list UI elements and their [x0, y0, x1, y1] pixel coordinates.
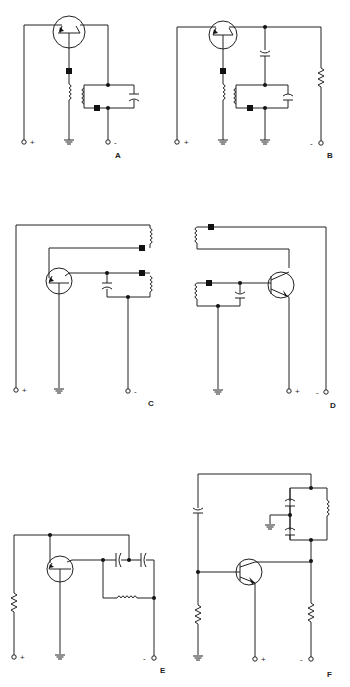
- svg-text:A: A: [115, 151, 121, 160]
- svg-text:+: +: [184, 138, 189, 147]
- inductor-icon: [223, 74, 225, 140]
- svg-text:+: +: [261, 655, 266, 664]
- capacitor-icon: [193, 508, 203, 510]
- svg-text:-: -: [114, 138, 117, 147]
- svg-text:+: +: [22, 386, 27, 395]
- svg-text:-: -: [310, 139, 313, 148]
- resistor-icon: [308, 561, 314, 657]
- svg-text:D: D: [330, 401, 336, 410]
- circuit-e: + - E: [11, 533, 166, 675]
- svg-text:C: C: [148, 399, 154, 408]
- capacitor-icon: [102, 287, 112, 289]
- circuit-d: + - D: [195, 224, 336, 410]
- svg-text:-: -: [134, 387, 137, 396]
- inductor-icon: [103, 560, 154, 598]
- svg-text:B: B: [327, 151, 333, 160]
- svg-text:-: -: [300, 655, 303, 664]
- circuit-diagrams: + - A +: [0, 0, 350, 687]
- capacitor-icon: [116, 553, 154, 597]
- inductor-icon: [290, 488, 329, 540]
- inductor-icon: [195, 227, 289, 268]
- svg-text:+: +: [20, 653, 25, 662]
- resistor-icon: [318, 27, 324, 142]
- svg-text:+: +: [30, 138, 35, 147]
- inductor-icon: [150, 228, 152, 248]
- capacitor-icon: [260, 51, 270, 53]
- svg-text:+: +: [295, 387, 300, 396]
- circuit-a: + - A: [22, 16, 139, 160]
- resistor-icon: [11, 535, 17, 656]
- svg-text:-: -: [316, 388, 319, 397]
- svg-text:F: F: [327, 670, 332, 679]
- svg-text:-: -: [143, 654, 146, 663]
- circuit-c: + - C: [14, 225, 154, 408]
- circuit-b: + - B: [175, 21, 333, 160]
- circuit-f: + - F: [193, 474, 332, 679]
- svg-text:E: E: [160, 666, 166, 675]
- inductor-icon: [69, 74, 71, 140]
- resistor-icon: [195, 572, 201, 655]
